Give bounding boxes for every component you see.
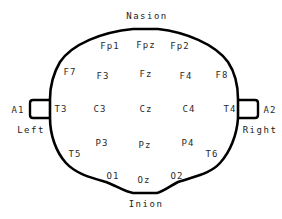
electrode-c4: C4 (183, 105, 196, 114)
eeg-10-20-diagram: Nasion Inion Left Right A1 A2 Fp1 Fpz Fp… (0, 0, 282, 219)
right-label: Right (243, 126, 278, 135)
electrode-t3: T3 (55, 105, 68, 114)
nasion-label: Nasion (126, 12, 168, 21)
inion-label: Inion (129, 200, 164, 209)
electrode-cz: Cz (140, 105, 153, 114)
electrode-f4: F4 (180, 72, 193, 81)
electrode-t5: T5 (69, 150, 82, 159)
electrode-p3: P3 (96, 139, 109, 148)
electrode-f8: F8 (216, 71, 229, 80)
electrode-fpz: Fpz (136, 41, 155, 50)
electrode-p4: P4 (182, 139, 195, 148)
right-ear (238, 100, 258, 118)
electrode-fz: Fz (140, 70, 153, 79)
electrode-o2: O2 (171, 172, 184, 181)
electrode-fp2: Fp2 (170, 42, 189, 51)
electrode-c3: C3 (94, 105, 107, 114)
electrode-fp1: Fp1 (100, 42, 119, 51)
left-ear (30, 100, 50, 118)
electrode-f3: F3 (97, 72, 110, 81)
electrode-t4: T4 (224, 105, 237, 114)
left-label: Left (17, 126, 45, 135)
electrode-a2: A2 (264, 106, 277, 115)
electrode-f7: F7 (64, 68, 77, 77)
electrode-oz: Oz (138, 176, 151, 185)
electrode-t6: T6 (206, 150, 219, 159)
electrode-a1: A1 (12, 106, 25, 115)
electrode-pz: Pz (139, 141, 152, 150)
electrode-o1: O1 (107, 172, 120, 181)
